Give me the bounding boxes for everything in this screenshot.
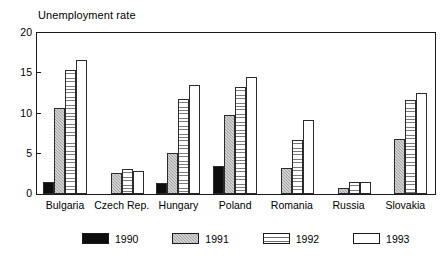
y-tick-label-5: 5: [0, 148, 32, 158]
y-axis: 20151050: [0, 32, 32, 195]
bar-group-romania: [264, 33, 321, 194]
y-tick-label-0: 0: [0, 188, 32, 198]
bar-1992-romania: [292, 140, 303, 194]
x-tick-label-bulgaria: Bulgaria: [46, 199, 85, 211]
y-tick-mark-15: [36, 72, 41, 73]
y-tick-mark-5: [36, 153, 41, 154]
bar-group-russia: [321, 33, 378, 194]
bar-1992-russia: [349, 182, 360, 194]
bar-1991-poland: [224, 115, 235, 194]
bar-1993-hungary: [189, 85, 200, 194]
y-tick-label-20: 20: [0, 27, 32, 37]
bar-1991-czech-rep: [111, 173, 122, 194]
x-tick-label-slovakia: Slovakia: [385, 199, 425, 211]
bars-layer: [37, 33, 434, 194]
chart-title: Unemployment rate: [38, 9, 136, 22]
bar-1993-slovakia: [416, 93, 427, 194]
bar-1992-poland: [235, 87, 246, 194]
bar-1990-poland: [213, 166, 224, 194]
x-tick-label-romania: Romania: [271, 199, 313, 211]
x-axis: BulgariaCzech Rep.HungaryPolandRomaniaRu…: [36, 199, 436, 215]
bar-1993-poland: [246, 77, 257, 194]
bar-1992-hungary: [178, 99, 189, 194]
legend-entry-1992[interactable]: 1992: [263, 233, 353, 245]
legend-label-1992: 1992: [296, 233, 319, 245]
legend-swatch-1993: [353, 233, 380, 244]
bar-1991-slovakia: [394, 139, 405, 194]
bar-1991-romania: [281, 168, 292, 194]
legend-swatch-1990: [82, 233, 109, 244]
bar-1993-russia: [360, 182, 371, 194]
x-tick-label-russia: Russia: [333, 199, 365, 211]
bar-1993-bulgaria: [76, 60, 87, 194]
chart-legend: 1990199119921993: [82, 231, 409, 246]
y-tick-label-10: 10: [0, 108, 32, 118]
legend-swatch-1991: [172, 233, 199, 244]
bar-group-hungary: [150, 33, 207, 194]
bar-1991-russia: [338, 188, 349, 194]
y-tick-label-15: 15: [0, 67, 32, 77]
x-tick-label-poland: Poland: [219, 199, 252, 211]
x-tick-label-czech-rep: Czech Rep.: [94, 199, 149, 211]
bar-1991-bulgaria: [54, 108, 65, 194]
bar-1991-hungary: [167, 153, 178, 194]
bar-1992-czech-rep: [122, 169, 133, 194]
bar-group-bulgaria: [37, 33, 94, 194]
bar-group-czech-rep: [94, 33, 151, 194]
bar-1992-slovakia: [405, 100, 416, 194]
bar-1990-hungary: [156, 183, 167, 194]
legend-entry-1991[interactable]: 1991: [172, 233, 262, 245]
legend-label-1990: 1990: [115, 233, 138, 245]
bar-group-poland: [207, 33, 264, 194]
legend-swatch-1992: [263, 233, 290, 244]
bar-1993-romania: [303, 120, 314, 194]
legend-entry-1990[interactable]: 1990: [82, 233, 172, 245]
bar-group-slovakia: [377, 33, 434, 194]
y-tick-mark-10: [36, 113, 41, 114]
bar-1992-bulgaria: [65, 70, 76, 194]
legend-entry-1993[interactable]: 1993: [353, 233, 409, 245]
legend-label-1993: 1993: [386, 233, 409, 245]
x-tick-label-hungary: Hungary: [159, 199, 199, 211]
bar-1993-czech-rep: [133, 171, 144, 194]
legend-label-1991: 1991: [205, 233, 228, 245]
bar-1990-bulgaria: [43, 182, 54, 194]
unemployment-rate-bar-chart: Unemployment rate 20151050 BulgariaCzech…: [0, 0, 445, 262]
